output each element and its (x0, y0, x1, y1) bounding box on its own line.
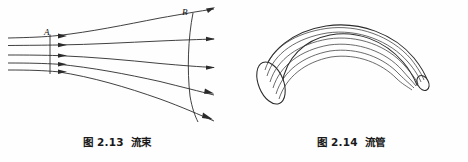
stream-tube-svg (234, 0, 468, 134)
caption-number: 图 2.13 (83, 136, 124, 148)
tube-streamline-6 (279, 56, 412, 99)
tube-interior-streamlines (265, 28, 424, 99)
caption-title: 流管 (365, 136, 385, 148)
figure-stream-bundle: A B 图 2.13流束 (0, 0, 234, 162)
caption-title: 流束 (131, 136, 151, 148)
figure-page: A B 图 2.13流束 (0, 0, 468, 162)
stream-tube-drawing (234, 0, 468, 134)
arrowheads-at-b (202, 7, 215, 119)
streamline-5 (8, 70, 214, 121)
tube-streamline-5 (276, 50, 414, 94)
stream-bundle-drawing: A B (0, 0, 234, 134)
figure-stream-tube: 图 2.14流管 (234, 0, 468, 162)
cross-section-b (188, 13, 198, 122)
stream-bundle-svg (0, 0, 234, 134)
label-cross-section-a: A (44, 27, 50, 37)
streamline-4 (8, 63, 214, 95)
arrowheads-at-a (58, 34, 67, 74)
label-cross-section-b: B (182, 7, 188, 17)
figure-caption-stream-tube: 图 2.14流管 (234, 134, 468, 149)
figure-caption-stream-bundle: 图 2.13流束 (0, 134, 234, 149)
streamline-2 (8, 39, 214, 46)
tube-outline (262, 25, 428, 85)
caption-number: 图 2.14 (317, 136, 358, 148)
streamline-3 (8, 55, 214, 68)
